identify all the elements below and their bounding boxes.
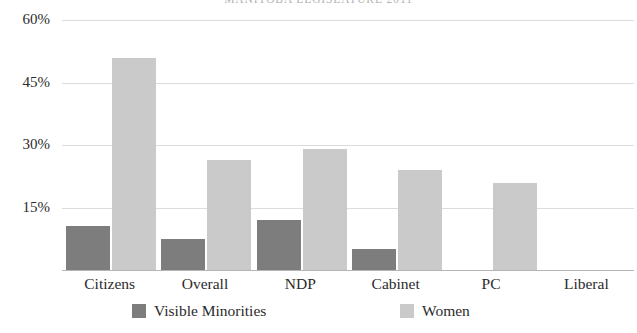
y-tick-label: 60% bbox=[0, 12, 50, 27]
bar-ndp-visible-minorities[interactable] bbox=[257, 220, 301, 270]
bar-cabinet-women[interactable] bbox=[398, 170, 442, 270]
legend-swatch-visible-minorities-icon bbox=[132, 304, 146, 318]
bar-groups bbox=[62, 20, 634, 270]
x-label-overall: Overall bbox=[150, 275, 260, 293]
y-tick-label: 30% bbox=[0, 137, 50, 152]
bar-group-cabinet bbox=[348, 20, 443, 270]
chart-legend: Visible Minorities Women bbox=[0, 303, 637, 327]
legend-item-women[interactable]: Women bbox=[400, 303, 470, 319]
bar-cabinet-visible-minorities[interactable] bbox=[352, 249, 396, 270]
y-tick-label: 45% bbox=[0, 75, 50, 90]
y-tick-label: 15% bbox=[0, 200, 50, 215]
plot-area: 15%30%45%60% bbox=[62, 20, 634, 271]
bar-group-overall bbox=[157, 20, 252, 270]
x-axis-baseline bbox=[62, 270, 634, 271]
bar-group-ndp bbox=[253, 20, 348, 270]
bar-pc-women[interactable] bbox=[493, 183, 537, 271]
x-label-ndp: NDP bbox=[245, 275, 355, 293]
legend-swatch-women-icon bbox=[400, 304, 414, 318]
x-label-cabinet: Cabinet bbox=[341, 275, 451, 293]
x-label-citizens: Citizens bbox=[55, 275, 165, 293]
bar-citizens-visible-minorities[interactable] bbox=[66, 226, 110, 270]
chart-title: MANITOBA LEGISLATURE 2011 bbox=[0, 0, 637, 5]
x-axis-labels: CitizensOverallNDPCabinetPCLiberal bbox=[62, 275, 634, 299]
bar-ndp-women[interactable] bbox=[303, 149, 347, 270]
chart-figure: MANITOBA LEGISLATURE 2011 15%30%45%60% C… bbox=[0, 0, 637, 333]
x-label-liberal: Liberal bbox=[531, 275, 637, 293]
legend-label-visible-minorities: Visible Minorities bbox=[154, 303, 266, 319]
bar-group-liberal bbox=[539, 20, 634, 270]
x-label-pc: PC bbox=[436, 275, 546, 293]
legend-item-visible-minorities[interactable]: Visible Minorities bbox=[132, 303, 266, 319]
bar-overall-visible-minorities[interactable] bbox=[161, 239, 205, 270]
bar-group-pc bbox=[443, 20, 538, 270]
bar-overall-women[interactable] bbox=[207, 160, 251, 270]
bar-citizens-women[interactable] bbox=[112, 58, 156, 271]
bar-group-citizens bbox=[62, 20, 157, 270]
legend-label-women: Women bbox=[422, 303, 470, 319]
